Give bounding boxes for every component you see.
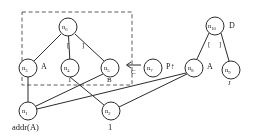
node-side-label-n8: A: [207, 63, 213, 71]
node-label-n2: n2: [105, 108, 111, 117]
node-label-n6: n6: [62, 24, 68, 33]
node-side-label-n7: P↑: [166, 63, 174, 71]
edge-n6-n3: [34, 34, 61, 61]
pointer-label-c: C: [131, 69, 136, 76]
edge-label-n10-n9: ]: [219, 41, 221, 48]
node-label-n1: n1: [22, 108, 28, 117]
edge-n10-n9: [221, 33, 229, 61]
node-below-label-n9: J: [228, 80, 231, 87]
node-label-n4: n4: [64, 65, 70, 74]
node-below-label-n2: 1: [108, 123, 112, 132]
node-below-label-n5: B: [107, 77, 112, 84]
node-below-label-n4: 1: [68, 77, 72, 84]
node-label-n10: n10: [208, 23, 216, 32]
edge-label-n10-n8: [: [208, 41, 210, 48]
node-label-n9: n9: [225, 67, 231, 76]
node-below-label-n1: addr(A): [12, 123, 39, 132]
node-label-n3: n3: [22, 65, 28, 74]
edge-label-n6-n4: [: [67, 42, 69, 49]
node-side-label-n10: D: [229, 22, 235, 30]
node-label-n8: n8: [188, 65, 194, 74]
edge-n2-n8: [119, 74, 187, 107]
edge-n6-n5: [75, 34, 104, 61]
node-side-label-n3: A: [41, 63, 47, 71]
diagram-canvas: [0, 0, 255, 140]
edge-label-n6-n5: ]: [82, 42, 84, 49]
node-label-n5: n5: [104, 65, 110, 74]
node-label-n7: n7: [147, 65, 153, 74]
